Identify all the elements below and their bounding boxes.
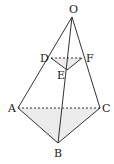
label-f: F — [86, 52, 94, 65]
pyramid-diagram: O D F E A C B — [0, 0, 114, 164]
label-o: O — [69, 3, 78, 16]
label-b: B — [54, 147, 62, 160]
label-e: E — [57, 69, 65, 82]
label-a: A — [7, 102, 17, 115]
label-d: D — [40, 52, 49, 65]
diagram-svg: O D F E A C B — [0, 0, 114, 164]
label-c: C — [102, 102, 110, 115]
